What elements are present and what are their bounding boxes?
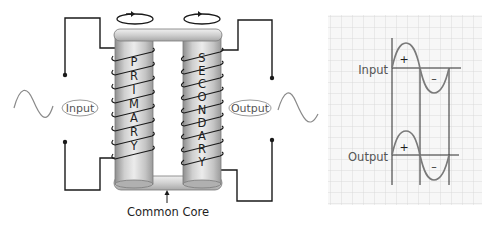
output-wave-icon [278, 93, 318, 122]
output-negative-sign: – [431, 160, 437, 173]
svg-text:R: R [198, 142, 206, 156]
svg-text:Y: Y [197, 155, 206, 169]
svg-text:S: S [198, 51, 205, 65]
svg-text:A: A [198, 129, 206, 143]
primary-label: P R I M A R Y [129, 55, 139, 153]
waveform-graph: + – + – Input Output [328, 15, 482, 205]
top-yoke [114, 29, 222, 41]
svg-text:P: P [131, 55, 138, 69]
svg-text:R: R [130, 125, 138, 139]
svg-text:E: E [198, 64, 205, 78]
input-terminal-bottom [63, 140, 67, 144]
output-label: Output [231, 102, 270, 115]
common-core-label: Common Core [127, 205, 209, 219]
output-terminal-top [270, 76, 274, 80]
flux-arrow-secondary-icon [184, 11, 220, 24]
svg-text:I: I [132, 83, 135, 97]
input-positive-sign: + [399, 53, 408, 66]
input-terminal-top [63, 73, 67, 77]
svg-text:Y: Y [129, 139, 138, 153]
svg-text:O: O [197, 90, 206, 104]
graph-output-label: Output [348, 150, 388, 164]
common-core-pointer [165, 190, 170, 203]
flux-arrow-primary-icon [117, 11, 153, 24]
transformer-diagram: P R I M A R Y S E C O N D A R Y Common C… [0, 0, 488, 227]
svg-text:A: A [130, 111, 138, 125]
svg-text:C: C [198, 77, 206, 91]
input-negative-sign: – [431, 72, 437, 85]
svg-text:R: R [130, 69, 138, 83]
svg-text:N: N [198, 103, 207, 117]
secondary-label: S E C O N D A R Y [197, 51, 206, 169]
output-positive-sign: + [399, 141, 408, 154]
input-label: Input [66, 102, 95, 115]
output-terminal-bottom [270, 138, 274, 142]
graph-input-label: Input [358, 63, 388, 77]
input-wave-icon [14, 90, 53, 117]
svg-text:M: M [129, 97, 139, 111]
svg-text:D: D [198, 116, 207, 130]
